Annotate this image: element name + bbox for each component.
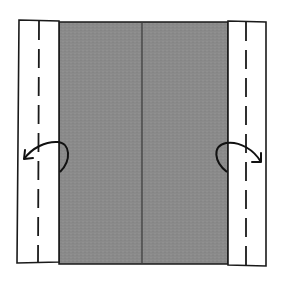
left-valley-fold-line — [38, 21, 39, 262]
center-panel — [59, 22, 228, 264]
fold-diagram — [0, 0, 282, 283]
